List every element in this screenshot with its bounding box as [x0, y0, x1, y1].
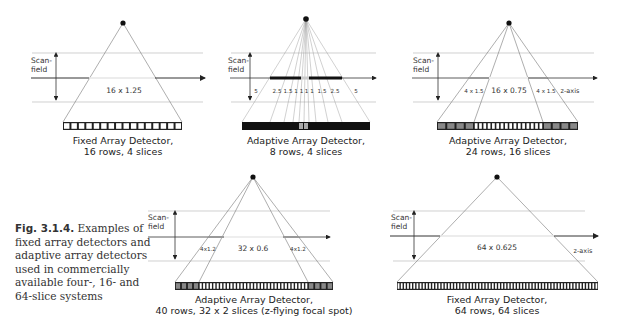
- xray-source-icon: [120, 20, 125, 25]
- svg-text:Adaptive Array Detector,: Adaptive Array Detector,: [195, 294, 313, 305]
- svg-text:Adaptive Array Detector,: Adaptive Array Detector,: [247, 135, 365, 146]
- xray-source-icon: [303, 16, 309, 22]
- xray-source-icon: [494, 174, 499, 179]
- svg-text:Scan-: Scan-: [228, 56, 249, 65]
- svg-text:24 rows, 16 slices: 24 rows, 16 slices: [466, 146, 551, 157]
- svg-text:16 rows, 4 slices: 16 rows, 4 slices: [84, 146, 163, 157]
- detector-array: [437, 122, 578, 130]
- svg-text:Scan-: Scan-: [413, 56, 434, 65]
- svg-text:8 rows, 4 slices: 8 rows, 4 slices: [270, 146, 343, 157]
- svg-text:1.5: 1.5: [284, 88, 293, 94]
- xray-source-icon: [250, 174, 255, 179]
- svg-text:Scan-: Scan-: [391, 213, 412, 222]
- detector-array: [397, 282, 598, 290]
- z-axis-label: z-axis: [574, 247, 593, 255]
- svg-text:5: 5: [254, 88, 258, 94]
- svg-text:4 x 1.5: 4 x 1.5: [536, 88, 556, 94]
- xray-source-icon: [506, 20, 511, 25]
- svg-text:Fixed Array Detector,: Fixed Array Detector,: [73, 135, 174, 146]
- svg-text:1.5: 1.5: [318, 88, 327, 94]
- panel-fixed-64: Scan- field 64 x 0.625 z-axis Fixed Arra…: [390, 174, 598, 316]
- figure-caption: Fig. 3.1.4. Examples of fixed array dete…: [15, 222, 155, 304]
- panel-adaptive-40: Scan- field 4x1.2 32 x 0.6 4x1.2 Adaptiv…: [148, 174, 352, 316]
- row-width-labels: 52.51.511111.52.55: [254, 88, 358, 94]
- svg-text:16 x 0.75: 16 x 0.75: [491, 86, 527, 95]
- svg-text:Fixed Array Detector,: Fixed Array Detector,: [447, 294, 548, 305]
- svg-text:1: 1: [305, 88, 309, 94]
- svg-text:2.5: 2.5: [273, 88, 282, 94]
- svg-text:Adaptive Array Detector,: Adaptive Array Detector,: [449, 135, 567, 146]
- svg-text:field: field: [391, 222, 407, 231]
- collimation-label: 16 x 1.25: [106, 86, 142, 95]
- svg-text:64 rows, 64 slices: 64 rows, 64 slices: [455, 305, 540, 316]
- figure-label: Fig. 3.1.4.: [15, 222, 74, 234]
- detector-array: [175, 282, 333, 290]
- panel-adaptive-8: Scan- field 52.51.511111.52.55 Adaptive …: [228, 16, 376, 157]
- svg-text:40 rows, 32 x 2 slices (z-flyi: 40 rows, 32 x 2 slices (z-flying focal s…: [156, 305, 353, 316]
- scanfield-label: Scan-: [31, 56, 52, 65]
- svg-text:4x1.2: 4x1.2: [200, 246, 216, 252]
- svg-text:64 x 0.625: 64 x 0.625: [477, 243, 517, 252]
- svg-text:1: 1: [300, 88, 304, 94]
- svg-text:field: field: [228, 65, 244, 74]
- z-axis-label: z-axis: [561, 87, 580, 95]
- svg-text:field: field: [413, 65, 429, 74]
- svg-text:1: 1: [310, 88, 314, 94]
- svg-text:4 x 1.5: 4 x 1.5: [464, 88, 484, 94]
- svg-text:4x1.2: 4x1.2: [290, 246, 306, 252]
- svg-text:Scan-: Scan-: [148, 213, 169, 222]
- detector-array: [63, 122, 182, 130]
- panel-fixed-16: Scan- field 16 x 1.25 Fixed Array Detect…: [31, 20, 205, 157]
- svg-text:2.5: 2.5: [331, 88, 340, 94]
- svg-text:field: field: [31, 65, 47, 74]
- svg-text:32 x 0.6: 32 x 0.6: [238, 244, 269, 253]
- svg-text:1: 1: [294, 88, 298, 94]
- svg-text:5: 5: [354, 88, 358, 94]
- panel-adaptive-24: Scan- field 4 x 1.5 16 x 0.75 4 x 1.5 z-…: [412, 20, 597, 157]
